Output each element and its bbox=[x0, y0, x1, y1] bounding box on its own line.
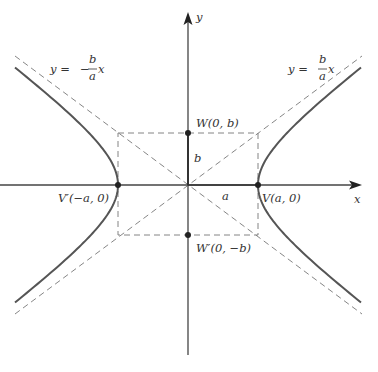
y-axis-label: y bbox=[195, 10, 203, 24]
point-w bbox=[185, 130, 191, 136]
point-v bbox=[255, 182, 261, 188]
segment-b-label: b bbox=[194, 151, 201, 165]
eq-neg-lhs: y = bbox=[49, 62, 70, 76]
point-v-prime bbox=[115, 182, 121, 188]
point-w-label: W(0, b) bbox=[196, 116, 239, 130]
point-w-prime bbox=[185, 232, 191, 238]
x-axis-label: x bbox=[354, 192, 361, 206]
eq-pos-num: b bbox=[319, 52, 326, 66]
point-w-prime-label: W′(0, −b) bbox=[196, 241, 251, 255]
hyperbola-diagram: y x W(0, b) W′(0, −b) V(a, 0) V′(−a, 0) … bbox=[0, 0, 378, 372]
eq-pos-lhs: y = bbox=[287, 62, 308, 76]
asymptote-negative-equation: y = − b a x bbox=[49, 52, 105, 83]
eq-pos-var: x bbox=[328, 62, 335, 76]
segment-a-label: a bbox=[222, 189, 229, 203]
asymptote-positive-equation: y = b a x bbox=[287, 52, 335, 83]
eq-neg-num: b bbox=[89, 52, 96, 66]
eq-pos-den: a bbox=[319, 69, 326, 83]
point-v-prime-label: V′(−a, 0) bbox=[58, 191, 109, 205]
eq-neg-den: a bbox=[89, 69, 96, 83]
eq-neg-var: x bbox=[98, 62, 105, 76]
point-v-label: V(a, 0) bbox=[262, 191, 301, 205]
